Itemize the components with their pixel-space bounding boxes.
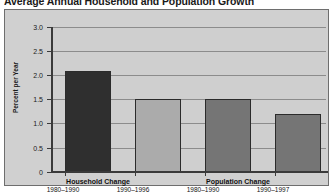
y-tick-1-5: [47, 99, 52, 100]
x-tick-4: [275, 172, 276, 176]
bar-household-1990-1996: [135, 99, 181, 172]
x-tick-1: [65, 172, 66, 176]
plot-area: [51, 27, 326, 172]
chart-plate: 3.0 2.5 2.0 1.5 1.0 0.5 0 Percent per Ye…: [4, 9, 329, 186]
chart-figure: Average Annual Household and Population …: [0, 0, 333, 192]
y-tick-2-0: [47, 75, 52, 76]
y-tick-0-5: [47, 148, 52, 149]
group-label-household: Household Change: [33, 178, 163, 186]
x-tick-2: [135, 172, 136, 176]
y-axis-label-3-0: 3.0: [11, 24, 43, 31]
y-axis-line: [51, 27, 53, 173]
bar-population-1980-1990: [205, 99, 251, 172]
period-label-household-2: 1990–1996: [98, 186, 168, 192]
y-axis-label-1-0: 1.0: [11, 120, 43, 127]
y-tick-0: [47, 172, 52, 173]
y-axis-title: Percent per Year: [12, 56, 19, 120]
x-tick-3: [205, 172, 206, 176]
y-axis-label-2-5: 2.5: [11, 48, 43, 55]
period-label-household-1: 1980–1990: [28, 186, 98, 192]
x-axis-line: [51, 171, 328, 173]
period-label-population-2: 1990–1997: [238, 186, 308, 192]
bar-household-1980-1990: [65, 71, 111, 172]
gridline-3-0: [51, 27, 326, 28]
y-axis-label-0-5: 0.5: [11, 145, 43, 152]
chart-title: Average Annual Household and Population …: [4, 0, 329, 8]
y-tick-2-5: [47, 51, 52, 52]
y-tick-1-0: [47, 123, 52, 124]
y-axis-label-0: 0: [11, 169, 43, 176]
y-tick-3-0: [47, 27, 52, 28]
group-label-population: Population Change: [173, 178, 303, 186]
bar-population-1990-1997: [275, 114, 321, 172]
period-label-population-1: 1980–1990: [168, 186, 238, 192]
gridline-2-5: [51, 51, 326, 52]
